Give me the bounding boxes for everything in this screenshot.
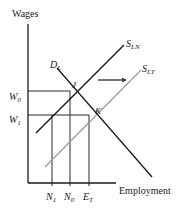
curve-label-labour-demand: DL <box>50 55 61 71</box>
point-label-k: K <box>95 107 101 116</box>
supply-shift-arrow-head <box>122 78 127 83</box>
x-tick-label-et: ET <box>83 187 93 203</box>
wages-employment-diagram: Wages Employment W0 W1 N1 N0 ET DL SLN S… <box>0 0 180 208</box>
y-tick-label-w0: W0 <box>9 87 21 103</box>
x-tick-n0-base: N <box>64 191 71 202</box>
y-axis-title: Wages <box>12 9 38 19</box>
curve-label-labour-supply-normal: SLN <box>126 34 140 50</box>
x-axis-title: Employment <box>119 186 171 196</box>
curve-label-labour-supply-temporary: SLT <box>142 59 155 75</box>
diagram-canvas <box>0 0 180 208</box>
x-tick-n0-subscript: 0 <box>71 196 75 204</box>
curve-label-dl-subscript: L <box>57 64 61 72</box>
x-tick-label-n1: N1 <box>46 187 56 203</box>
x-tick-n1-base: N <box>46 191 53 202</box>
y-tick-w0-subscript: 0 <box>17 96 21 104</box>
y-tick-label-w1: W1 <box>9 110 21 126</box>
x-tick-label-n0: N0 <box>64 187 74 203</box>
y-tick-w1-subscript: 1 <box>17 119 21 127</box>
x-tick-et-subscript: T <box>89 196 93 204</box>
curve-label-sln-subscript: LN <box>131 43 140 51</box>
point-label-j: J <box>72 81 76 90</box>
curve-label-slt-subscript: LT <box>147 68 155 76</box>
curve-labour-supply-temporary <box>45 70 141 167</box>
x-tick-n1-subscript: 1 <box>53 196 57 204</box>
